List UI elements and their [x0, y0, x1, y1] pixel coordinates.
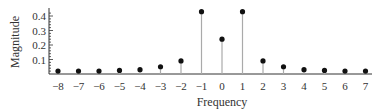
- x-tick-label: 6: [342, 80, 348, 92]
- x-tick-label: −4: [134, 80, 146, 92]
- x-tick-label: 5: [322, 80, 328, 92]
- y-axis: 0.10.20.30.4: [32, 8, 53, 74]
- stem-marker: [117, 68, 122, 73]
- y-axis-label: Magnitude: [8, 16, 22, 68]
- y-tick-label: 0.2: [32, 39, 46, 51]
- y-tick-label: 0.4: [32, 10, 46, 22]
- x-axis-label: Frequency: [197, 95, 248, 109]
- y-tick-label: 0.3: [32, 25, 46, 37]
- stem-marker: [178, 58, 183, 63]
- x-tick-label: −7: [73, 80, 85, 92]
- stem-marker: [240, 9, 245, 14]
- x-tick-label: 1: [240, 80, 246, 92]
- x-tick-label: 7: [363, 80, 369, 92]
- stem-marker: [363, 69, 368, 74]
- stem-marker: [342, 69, 347, 74]
- stem-marker: [322, 68, 327, 73]
- stem-marker: [76, 69, 81, 74]
- stem-marker: [301, 67, 306, 72]
- x-tick-label: −1: [196, 80, 208, 92]
- x-tick-label: 2: [260, 80, 266, 92]
- x-tick-label: 4: [301, 80, 307, 92]
- data-stems: [55, 9, 368, 74]
- stem-marker: [96, 69, 101, 74]
- x-tick-label: 0: [219, 80, 225, 92]
- x-tick-label: 3: [281, 80, 287, 92]
- x-axis: −8−7−6−5−4−3−2−101234567: [49, 74, 372, 92]
- stem-marker: [55, 69, 60, 74]
- x-tick-label: −8: [52, 80, 64, 92]
- chart-svg: 0.10.20.30.4 −8−7−6−5−4−3−2−101234567 Fr…: [0, 0, 386, 111]
- x-tick-label: −2: [175, 80, 187, 92]
- stem-marker: [199, 9, 204, 14]
- x-tick-label: −5: [114, 80, 126, 92]
- y-tick-label: 0.1: [32, 54, 46, 66]
- stem-marker: [281, 64, 286, 69]
- stem-marker: [158, 64, 163, 69]
- x-tick-label: −6: [93, 80, 105, 92]
- stem-chart: 0.10.20.30.4 −8−7−6−5−4−3−2−101234567 Fr…: [0, 0, 386, 111]
- x-tick-label: −3: [155, 80, 167, 92]
- stem-marker: [219, 37, 224, 42]
- stem-marker: [260, 58, 265, 63]
- stem-marker: [137, 67, 142, 72]
